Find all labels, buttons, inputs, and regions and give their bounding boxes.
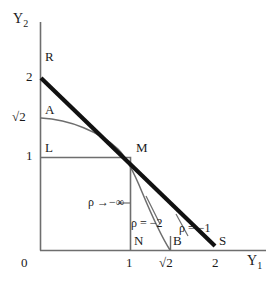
x-axis-label: Y1	[247, 254, 262, 271]
point-label-l: L	[45, 141, 53, 154]
x-tick-2: 2	[212, 256, 219, 269]
point-label-r: R	[45, 50, 54, 63]
point-label-b: B	[173, 234, 182, 247]
y-axis-label: Y2	[13, 12, 28, 29]
annotation-rho-minus-one: ρ = −1	[179, 222, 211, 234]
annotation-rho-minus-two: ρ = −2	[131, 217, 163, 229]
y-tick-2: 2	[26, 70, 33, 83]
origin-label: 0	[21, 256, 28, 269]
point-label-n: N	[134, 234, 143, 247]
point-label-s: S	[219, 234, 226, 247]
y-tick-sqrt2: √2	[12, 110, 26, 123]
point-label-m: M	[136, 141, 148, 154]
figure-canvas: Y2 Y1 0 2 √2 1 1 √2 2 R A L M N B S ρ →−…	[0, 0, 277, 284]
point-label-a: A	[45, 103, 54, 116]
y-tick-1: 1	[26, 149, 33, 162]
x-tick-sqrt2: √2	[159, 256, 173, 269]
x-tick-1: 1	[126, 256, 133, 269]
annotation-rho-infinity: ρ →−∞	[88, 196, 124, 208]
